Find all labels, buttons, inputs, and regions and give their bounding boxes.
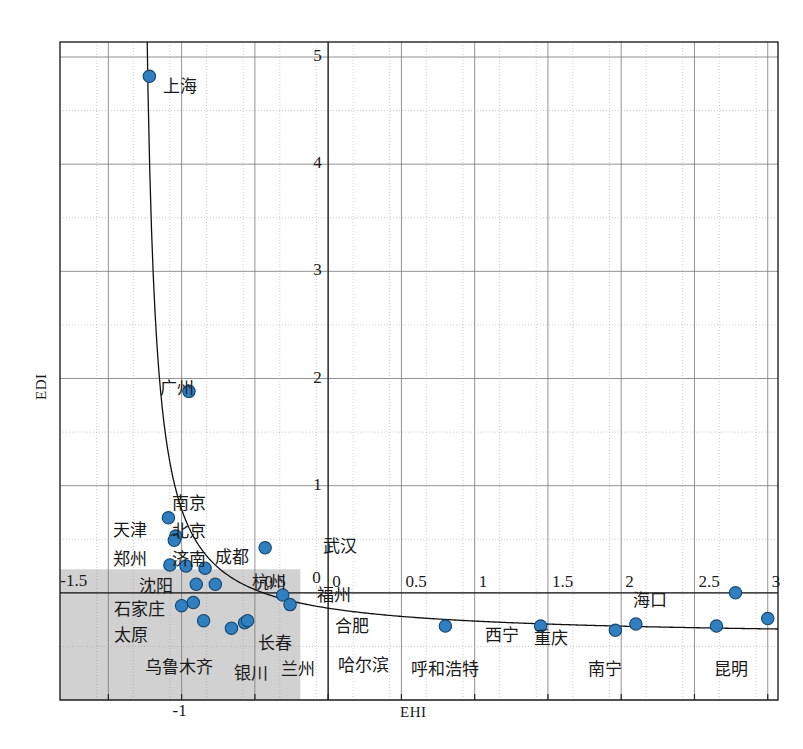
y-tick-label: 5 <box>313 47 322 64</box>
data-point <box>225 622 237 634</box>
data-point <box>241 615 253 627</box>
y-axis-title: EDI <box>34 374 49 401</box>
city-label: 哈尔滨 <box>338 657 389 674</box>
city-label: 武汉 <box>323 538 357 555</box>
city-label: 合肥 <box>335 618 369 635</box>
city-label: 北京 <box>172 523 206 540</box>
city-label: 福州 <box>317 587 351 604</box>
city-label: 沈阳 <box>139 578 173 595</box>
city-label: 南京 <box>172 495 206 512</box>
y-tick-label: 2 <box>313 369 322 386</box>
city-label: 天津 <box>113 522 147 539</box>
data-point <box>609 624 621 636</box>
city-label: 杭州 <box>252 574 286 591</box>
x-tick-label: 0.5 <box>405 573 426 590</box>
city-label: 重庆 <box>534 630 568 647</box>
city-label: 济南 <box>172 551 206 568</box>
data-point <box>710 620 722 632</box>
data-point <box>439 620 451 632</box>
city-label: 上海 <box>163 78 197 95</box>
city-label: 成都 <box>215 549 249 566</box>
data-point <box>209 578 221 590</box>
city-label: 乌鲁木齐 <box>145 659 213 676</box>
x-tick-label: -1.5 <box>60 572 87 589</box>
chart-canvas: -1.5-1-0.500.511.522.53 123450 上海广州南京天津北… <box>0 0 803 749</box>
city-label: 银川 <box>234 665 268 682</box>
data-point <box>729 587 741 599</box>
data-point <box>762 612 774 624</box>
data-point <box>259 542 271 554</box>
city-label: 太原 <box>114 627 148 644</box>
x-axis-title: EHI <box>400 705 427 720</box>
data-point <box>187 596 199 608</box>
x-tick-label: -1 <box>173 702 187 719</box>
x-tick-label: 1.5 <box>552 573 573 590</box>
city-label: 郑州 <box>113 551 147 568</box>
data-point <box>143 70 155 82</box>
y-tick-label: 0 <box>312 569 321 586</box>
y-tick-label: 4 <box>313 154 322 171</box>
city-label: 石家庄 <box>114 601 165 618</box>
city-label: 广州 <box>160 380 194 397</box>
x-tick-label: 2.5 <box>698 573 719 590</box>
data-point <box>630 618 642 630</box>
x-tick-label: 2 <box>625 573 634 590</box>
x-tick-label: 1 <box>479 573 488 590</box>
city-label: 长春 <box>258 635 292 652</box>
data-point <box>284 598 296 610</box>
data-point <box>197 615 209 627</box>
data-point <box>175 599 187 611</box>
x-tick-label: 3 <box>772 573 781 590</box>
city-label: 南宁 <box>588 661 622 678</box>
data-point <box>190 578 202 590</box>
city-label: 兰州 <box>281 661 315 678</box>
city-label: 海口 <box>633 592 667 609</box>
city-label: 西宁 <box>485 627 519 644</box>
y-tick-label: 1 <box>313 476 322 493</box>
city-label: 呼和浩特 <box>411 661 479 678</box>
y-tick-label: 3 <box>313 261 322 278</box>
city-label: 昆明 <box>714 661 748 678</box>
